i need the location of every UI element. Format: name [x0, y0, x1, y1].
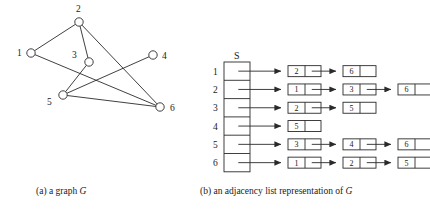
- figure-container: 123456 123456 26136255346125 S (a) a gra…: [0, 0, 430, 217]
- list-node-value-5-2: 4: [350, 140, 354, 149]
- list-node-value-6-2: 2: [350, 159, 354, 168]
- list-node-2-3[interactable]: [398, 84, 430, 95]
- list-node-3-2[interactable]: [343, 102, 376, 113]
- graph-vertex-label-1: 1: [17, 48, 22, 58]
- graph-vertex-2[interactable]: [75, 18, 83, 26]
- adjacency-row-label-6: 6: [213, 158, 218, 168]
- list-node-4-1[interactable]: [288, 121, 321, 132]
- graph-vertex-1[interactable]: [27, 49, 35, 57]
- array-header-label: S: [234, 50, 240, 61]
- list-node-value-2-1: 1: [295, 85, 299, 94]
- figure-svg: 123456 123456 26136255346125 S: [0, 0, 430, 217]
- list-node-value-6-3: 5: [405, 159, 409, 168]
- list-node-value-2-3: 6: [405, 85, 409, 94]
- graph-vertex-label-3: 3: [72, 50, 77, 60]
- list-node-value-3-2: 5: [350, 104, 354, 113]
- graph-edge-5-6: [67, 96, 156, 107]
- graph-edge-2-6: [82, 25, 157, 104]
- graph-edges-group: [35, 24, 158, 106]
- list-node-value-1-1: 2: [295, 67, 299, 76]
- graph-edge-2-3: [80, 26, 88, 58]
- list-node-value-3-1: 2: [295, 104, 299, 113]
- list-node-value-2-2: 3: [350, 85, 354, 94]
- graph-vertex-label-5: 5: [47, 97, 52, 107]
- adjacency-row-label-1: 1: [213, 67, 218, 77]
- adjacency-lists-group: 26136255346125: [238, 66, 430, 168]
- adjacency-row-label-4: 4: [213, 122, 218, 132]
- list-node-value-4-1: 5: [295, 122, 299, 131]
- adjacency-row-label-5: 5: [213, 140, 218, 150]
- adjacency-array-group: 123456: [213, 62, 250, 172]
- graph-vertex-6[interactable]: [156, 103, 164, 111]
- list-node-1-2[interactable]: [343, 66, 376, 77]
- list-node-value-5-1: 3: [295, 140, 299, 149]
- list-node-6-3[interactable]: [398, 157, 430, 168]
- graph-vertex-5[interactable]: [59, 91, 67, 99]
- graph-vertices-group: 123456: [17, 4, 175, 113]
- graph-vertex-3[interactable]: [85, 58, 93, 66]
- graph-vertex-label-4: 4: [162, 51, 167, 61]
- graph-edge-1-6: [35, 55, 156, 106]
- caption-adjacency-list: (b) an adjacency list representation of …: [200, 186, 352, 196]
- list-node-5-3[interactable]: [398, 139, 430, 150]
- adjacency-row-label-2: 2: [213, 85, 218, 95]
- caption-graph: (a) a graph G: [36, 186, 86, 196]
- list-node-value-5-3: 6: [405, 140, 409, 149]
- graph-vertex-label-6: 6: [170, 103, 175, 113]
- adjacency-row-label-3: 3: [213, 103, 218, 113]
- graph-vertex-4[interactable]: [149, 51, 157, 59]
- graph-vertex-label-2: 2: [76, 4, 81, 14]
- caption-a-italic: G: [80, 186, 87, 196]
- graph-edge-1-2: [35, 24, 76, 50]
- list-node-value-1-2: 6: [350, 67, 354, 76]
- list-node-value-6-1: 1: [295, 159, 299, 168]
- caption-b-text: (b) an adjacency list representation of: [200, 186, 346, 196]
- caption-a-text: (a) a graph: [36, 186, 80, 196]
- caption-b-italic: G: [346, 186, 353, 196]
